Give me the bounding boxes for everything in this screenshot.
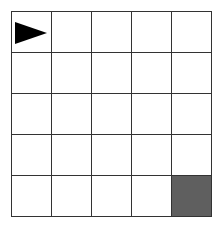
grid-cell-r4-c2[interactable]: [91, 175, 131, 216]
grid-cell-r3-c3[interactable]: [131, 134, 171, 175]
grid-cell-r0-c2[interactable]: [91, 11, 131, 52]
grid-cell-r4-c0[interactable]: [11, 175, 51, 216]
grid-cell-r1-c1[interactable]: [51, 52, 91, 93]
grid-cell-r3-c4[interactable]: [171, 134, 211, 175]
grid-cell-r2-c3[interactable]: [131, 93, 171, 134]
grid-cell-r0-c0[interactable]: [11, 11, 51, 52]
grid-cell-r1-c0[interactable]: [11, 52, 51, 93]
grid-cell-r3-c1[interactable]: [51, 134, 91, 175]
game-grid: [11, 11, 212, 217]
goal-cell[interactable]: [171, 175, 211, 216]
grid-cell-r3-c2[interactable]: [91, 134, 131, 175]
grid-cell-r1-c4[interactable]: [171, 52, 211, 93]
grid-cell-r0-c4[interactable]: [171, 11, 211, 52]
grid-cell-r4-c3[interactable]: [131, 175, 171, 216]
grid-cell-r1-c3[interactable]: [131, 52, 171, 93]
grid-cell-r2-c0[interactable]: [11, 93, 51, 134]
grid-cell-r0-c3[interactable]: [131, 11, 171, 52]
grid-cell-r2-c4[interactable]: [171, 93, 211, 134]
agent-triangle-right-icon: [15, 22, 47, 44]
grid-cell-r2-c1[interactable]: [51, 93, 91, 134]
grid-cell-r2-c2[interactable]: [91, 93, 131, 134]
grid-cell-r4-c1[interactable]: [51, 175, 91, 216]
grid-cell-r0-c1[interactable]: [51, 11, 91, 52]
grid-cell-r1-c2[interactable]: [91, 52, 131, 93]
grid-cell-r3-c0[interactable]: [11, 134, 51, 175]
